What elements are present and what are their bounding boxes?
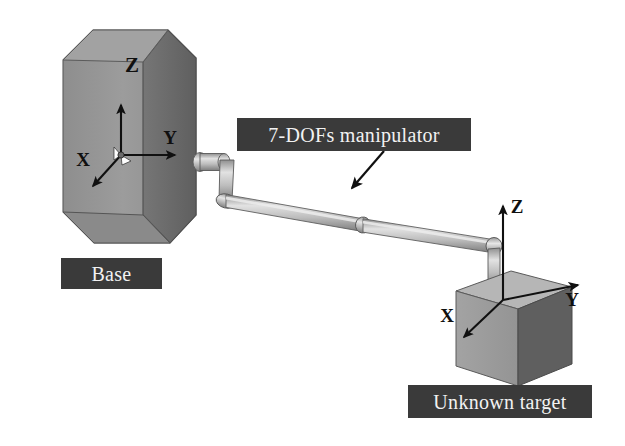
label-manipulator: 7-DOFs manipulator (237, 118, 471, 151)
label-base: Base (61, 258, 162, 289)
forearm-link (363, 219, 492, 253)
base-axis-x-label: X (76, 149, 90, 170)
scene-svg: Z Y X (0, 0, 625, 446)
base-axis-y-label: Y (163, 127, 177, 148)
manipulator-arm (193, 153, 503, 294)
base-top-z-letter: Z (125, 53, 139, 77)
label-unknown-target: Unknown target (408, 385, 592, 418)
upper-arm-link (226, 195, 362, 232)
robot-manipulator-diagram: Z Y X (0, 0, 625, 446)
target-axis-y-label: Y (565, 289, 579, 310)
manipulator-callout-arrow (352, 151, 384, 188)
target-axis-x-label: X (440, 305, 454, 326)
target-axis-z-label: Z (511, 196, 524, 217)
base-origin-dot (118, 152, 124, 158)
